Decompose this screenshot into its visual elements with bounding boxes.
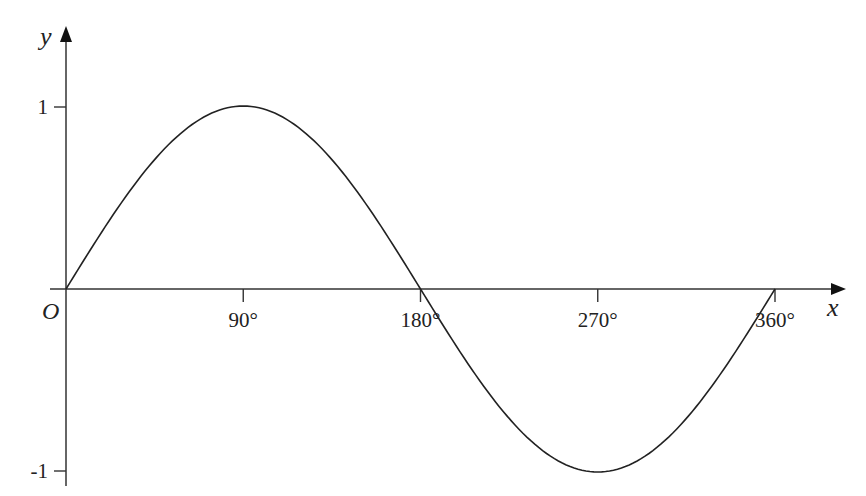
x-tick-label: 90° [229, 308, 258, 332]
sine-chart: 90°180°270°360°1-1yxO [0, 0, 866, 496]
x-axis-label: x [826, 293, 839, 322]
axis-labels: 90°180°270°360°1-1yxO [31, 22, 840, 483]
x-tick-label: 360° [755, 308, 795, 332]
x-tick-label: 270° [578, 308, 618, 332]
y-tick-label: 1 [38, 95, 49, 119]
chart-svg: 90°180°270°360°1-1yxO [0, 0, 866, 496]
axes [50, 26, 846, 486]
y-tick-label: -1 [31, 459, 49, 483]
y-axis-label: y [37, 22, 52, 51]
y-axis-arrow-icon [60, 26, 72, 42]
origin-label: O [42, 298, 59, 324]
x-tick-label: 180° [401, 308, 441, 332]
